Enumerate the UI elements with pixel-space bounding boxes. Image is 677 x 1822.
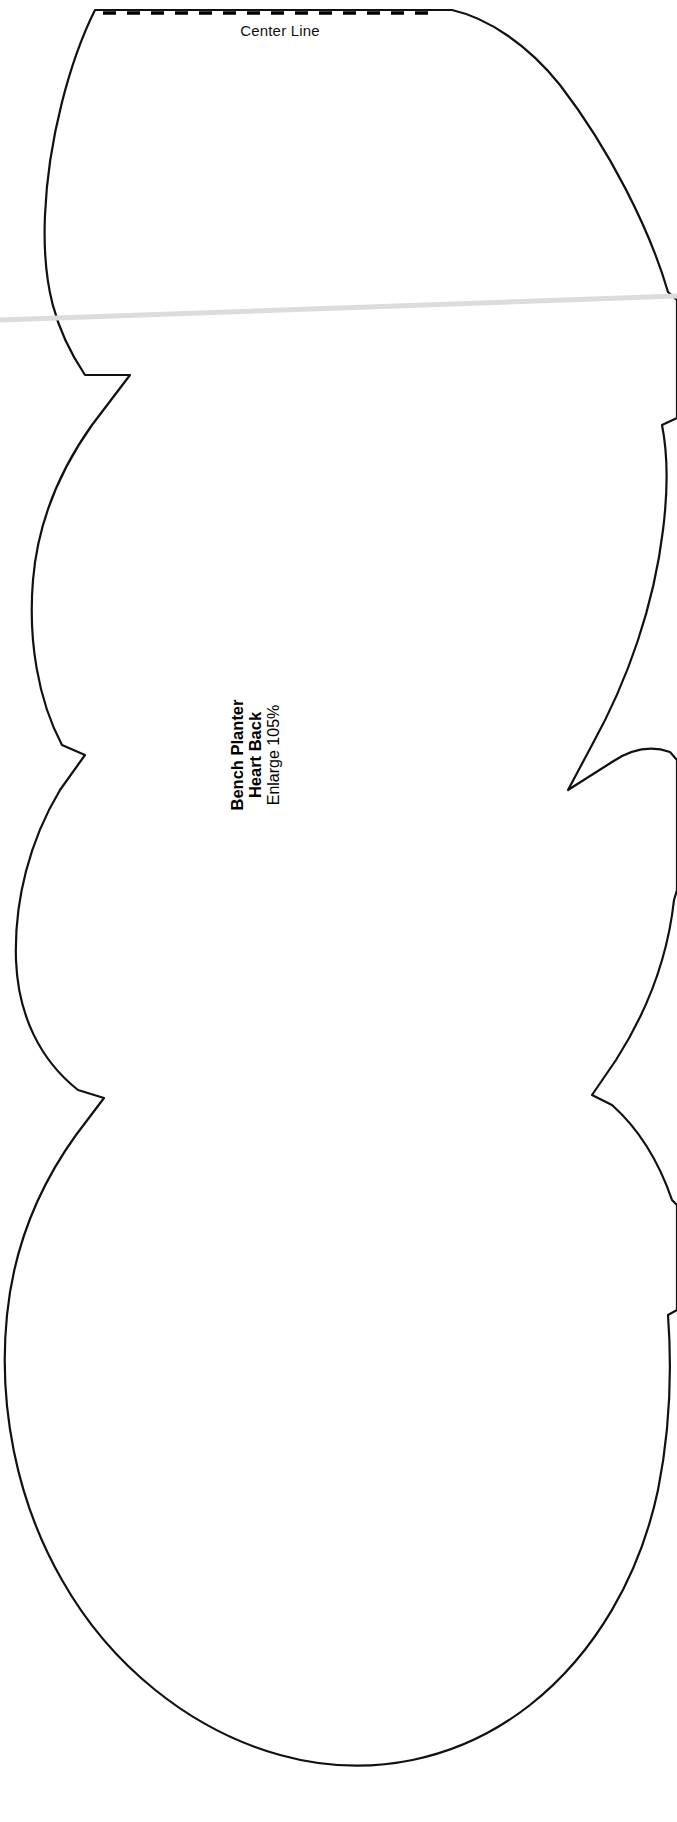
pattern-sheet: Center Line Bench Planter Heart Back Enl… [0,0,677,1822]
pattern-outline-drawing [0,0,677,1822]
center-line-label: Center Line [0,22,560,39]
pattern-piece-outline [5,10,677,1766]
